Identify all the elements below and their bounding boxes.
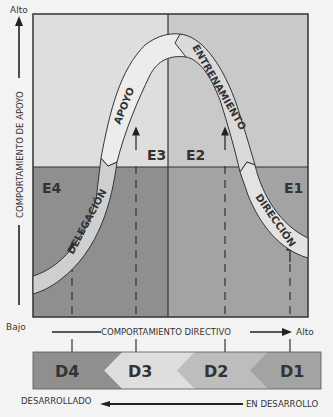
- quadrant-label-e3: E3: [147, 147, 166, 163]
- level-connectors: [72, 339, 290, 352]
- level-label-d2: D2: [204, 362, 228, 381]
- level-label-d1: D1: [280, 362, 304, 381]
- situational-leadership-diagram: DELEGACIÓN APOYO ENTRENAMIENTO DIRECCIÓN…: [0, 0, 333, 417]
- x-axis-title: COMPORTAMIENTO DIRECTIVO: [101, 327, 231, 337]
- quadrant-e3: [33, 14, 168, 167]
- quadrant-label-e2: E2: [186, 147, 205, 163]
- y-axis-title: COMPORTAMIENTO DE APOYO: [15, 91, 25, 218]
- development-left-label: DESARROLLADO: [21, 396, 92, 406]
- quadrant-label-e4: E4: [42, 180, 62, 196]
- y-axis-low-label: Bajo: [6, 322, 26, 332]
- development-right-label: EN DESARROLLO: [246, 399, 318, 409]
- level-label-d3: D3: [128, 362, 152, 381]
- x-axis-high-label: Alto: [296, 327, 314, 337]
- x-axis-arrow-icon: [282, 328, 292, 336]
- y-axis-high-label: Alto: [10, 5, 28, 15]
- y-axis-arrow-icon: [15, 16, 23, 26]
- level-label-d4: D4: [55, 362, 79, 381]
- quadrant-label-e1: E1: [284, 180, 303, 196]
